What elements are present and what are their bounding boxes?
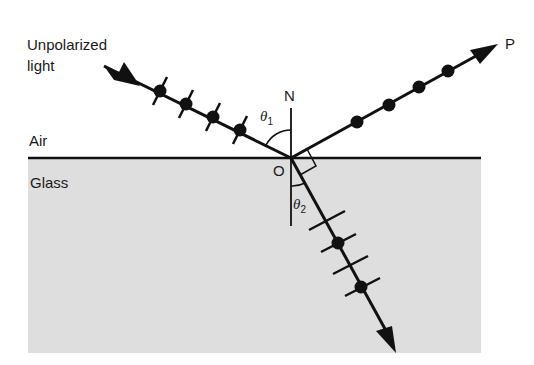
s-component-dot bbox=[180, 98, 193, 111]
s-component-dot bbox=[355, 281, 368, 294]
s-component-dot bbox=[332, 237, 345, 250]
glass-region bbox=[28, 158, 481, 353]
s-component-dot bbox=[413, 81, 426, 94]
reflected-end-label: P bbox=[505, 36, 515, 51]
theta1-subscript: 1 bbox=[267, 116, 273, 127]
reflected-arrowhead-icon bbox=[470, 44, 498, 64]
incident-arrowhead-icon bbox=[104, 62, 140, 86]
normal-label: N bbox=[284, 88, 295, 103]
theta1-label: θ1 bbox=[260, 109, 273, 127]
medium-glass-label: Glass bbox=[30, 175, 68, 190]
s-component-dot bbox=[207, 111, 220, 124]
s-component-dot bbox=[351, 116, 364, 129]
s-component-dot bbox=[383, 99, 396, 112]
theta1-arc bbox=[266, 130, 291, 145]
source-label-line1: Unpolarized bbox=[27, 37, 107, 52]
s-component-dot bbox=[442, 65, 455, 78]
s-component-dot bbox=[154, 85, 167, 98]
medium-air-label: Air bbox=[29, 133, 47, 148]
theta2-label: θ2 bbox=[293, 197, 306, 215]
theta2-subscript: 2 bbox=[300, 204, 306, 215]
polarization-diagram bbox=[0, 0, 534, 365]
s-component-dot bbox=[234, 124, 247, 137]
reflected-ray bbox=[291, 44, 498, 158]
origin-label: O bbox=[273, 163, 285, 178]
source-label-line2: light bbox=[27, 58, 55, 73]
